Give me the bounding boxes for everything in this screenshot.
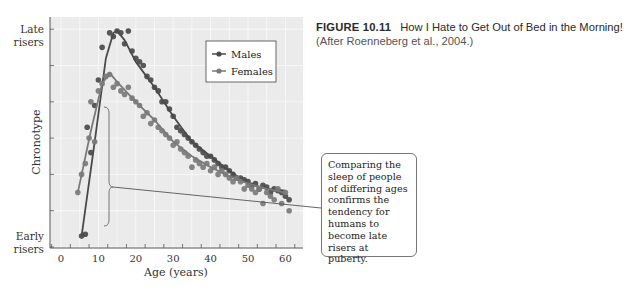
svg-text:20: 20 bbox=[129, 253, 142, 264]
svg-text:10: 10 bbox=[92, 253, 105, 264]
svg-text:30: 30 bbox=[167, 253, 180, 264]
figure-credit: (After Roenneberg et al., 2004.) bbox=[316, 34, 626, 48]
y-top-label: Laterisers bbox=[14, 23, 44, 48]
svg-text:0: 0 bbox=[58, 253, 64, 264]
figure-title: How I Hate to Get Out of Bed in the Morn… bbox=[400, 21, 623, 33]
svg-text:40: 40 bbox=[204, 253, 217, 264]
figure-number: FIGURE 10.11 bbox=[316, 21, 391, 33]
y-bottom-label: Earlyrisers bbox=[14, 230, 44, 255]
svg-text:Males: Males bbox=[231, 49, 261, 60]
legend: MalesFemales bbox=[206, 41, 276, 82]
figure-caption: FIGURE 10.11 How I Hate to Get Out of Be… bbox=[316, 20, 626, 48]
svg-text:50: 50 bbox=[242, 253, 255, 264]
callout-box: Comparing the sleep of people of differi… bbox=[321, 153, 417, 257]
x-axis-label: Age (years) bbox=[143, 266, 208, 279]
svg-text:Females: Females bbox=[231, 66, 273, 77]
svg-text:60: 60 bbox=[279, 253, 292, 264]
y-axis-label: Chronotype bbox=[30, 109, 43, 174]
